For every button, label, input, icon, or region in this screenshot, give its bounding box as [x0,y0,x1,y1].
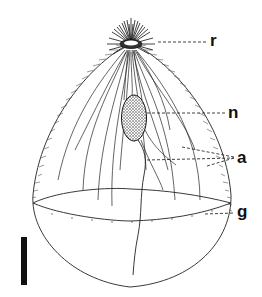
central-fiber [133,140,145,275]
apical-tuft [107,18,155,54]
leader-a-2 [182,147,234,157]
cell-diagram: r n a g [0,0,262,297]
leader-lines [147,42,234,214]
label-a: a [237,149,246,166]
diagram-canvas [0,0,262,297]
leader-a-3 [207,158,234,166]
label-r: r [210,32,217,49]
girdle [33,188,231,223]
label-n: n [228,104,238,121]
leader-a-1 [147,158,234,160]
scale-bar [21,237,27,285]
nucleus [122,95,147,141]
label-g: g [237,203,247,220]
